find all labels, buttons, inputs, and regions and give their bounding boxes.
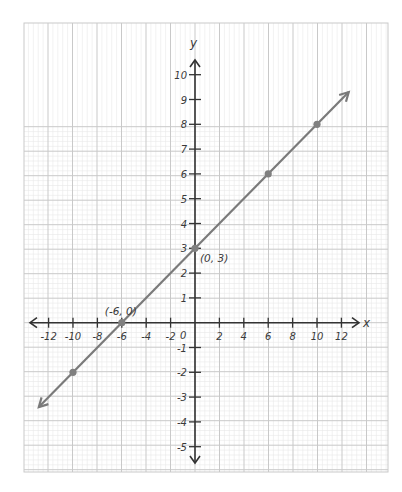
grid-border — [24, 23, 388, 472]
y-tick-label: 2 — [181, 268, 187, 279]
x-tick-label: -2 — [166, 331, 176, 342]
y-tick-label: 3 — [181, 243, 187, 254]
y-tick-label: 8 — [181, 119, 187, 130]
y-tick-label: -1 — [177, 343, 187, 354]
x-tick-label: 4 — [241, 331, 247, 342]
x-tick-label: -10 — [65, 331, 81, 342]
x-tick-label: -4 — [141, 331, 151, 342]
data-point — [313, 121, 320, 128]
x-tick-label: 12 — [335, 331, 348, 342]
y-tick-label: 1 — [181, 293, 187, 304]
y-tick-label: 9 — [181, 95, 187, 106]
y-tick-label: -3 — [177, 392, 187, 403]
data-point — [118, 319, 125, 326]
x-axis-ticks: -12-10-8-6-4-224681012 — [40, 318, 347, 342]
x-tick-label: 8 — [289, 331, 295, 342]
origin-label: 0 — [180, 330, 186, 341]
x-tick-label: 10 — [311, 331, 324, 342]
data-point — [69, 369, 76, 376]
coordinate-plane-chart: -12-10-8-6-4-224681012 -5-4-3-2-11234567… — [0, 0, 402, 492]
y-tick-label: -2 — [177, 367, 187, 378]
y-tick-label: 5 — [181, 194, 187, 205]
x-axis-label: x — [362, 316, 371, 330]
y-tick-label: 10 — [174, 70, 187, 81]
y-tick-label: 6 — [181, 169, 187, 180]
x-tick-label: -6 — [117, 331, 127, 342]
y-tick-label: -4 — [177, 417, 187, 428]
y-tick-label: -5 — [177, 442, 187, 453]
axes — [30, 60, 359, 463]
major-grid — [24, 23, 388, 472]
x-tick-label: 6 — [265, 331, 271, 342]
x-tick-label: -12 — [40, 331, 56, 342]
point-annotation: (-6, 0) — [105, 305, 137, 317]
minor-grid — [24, 23, 388, 472]
x-tick-label: -8 — [92, 331, 102, 342]
x-tick-label: 2 — [216, 331, 222, 342]
y-tick-label: 7 — [181, 144, 188, 155]
y-axis-label: y — [189, 36, 198, 50]
y-tick-label: 4 — [181, 219, 187, 230]
data-point — [265, 170, 272, 177]
point-annotation: (0, 3) — [200, 252, 228, 264]
data-point — [191, 245, 198, 252]
